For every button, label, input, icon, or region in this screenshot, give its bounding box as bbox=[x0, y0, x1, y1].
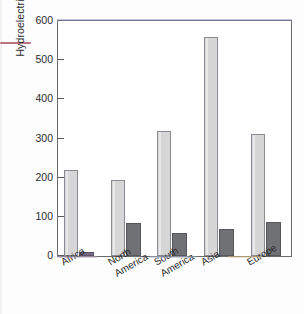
y-tick-label: 100 bbox=[35, 210, 53, 223]
x-axis-category-labels: AfricaNorth AmericaSouth AmericaAsiaEuro… bbox=[57, 258, 292, 314]
y-tick-label: 200 bbox=[35, 171, 53, 184]
bar-potential bbox=[64, 170, 78, 256]
scan-streak-artifact bbox=[57, 19, 292, 21]
y-tick-label: 400 bbox=[35, 92, 53, 105]
y-tick-label: 300 bbox=[35, 132, 53, 145]
scan-streak-artifact bbox=[57, 256, 97, 258]
bar-potential bbox=[111, 180, 125, 256]
scan-streak-artifact bbox=[150, 256, 196, 258]
scan-edge-artifact bbox=[0, 0, 2, 314]
bar-group bbox=[58, 21, 105, 256]
y-axis-title: Hydroelectric power (GW) bbox=[14, 0, 28, 70]
scan-streak-artifact bbox=[228, 256, 262, 258]
figure-canvas: Hydroelectric power (GW) 010020030040050… bbox=[0, 0, 304, 314]
y-tick-label: 600 bbox=[35, 14, 53, 27]
y-tick-label: 500 bbox=[35, 53, 53, 66]
y-tick-label: 0 bbox=[47, 249, 53, 262]
